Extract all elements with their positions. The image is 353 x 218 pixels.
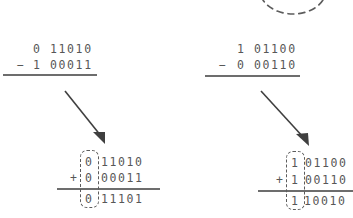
left-addend1-sign: 0 [85, 155, 94, 169]
figure-canvas: 0 11010 − 1 00011 0 11010 + 0 00011 0 11… [0, 0, 353, 218]
right-addition-operator: + [276, 173, 283, 187]
right-addend2-sign: 1 [291, 173, 300, 187]
right-subtraction-rule [205, 75, 300, 77]
left-transform-arrow [62, 88, 118, 150]
left-sum-sign: 0 [85, 192, 94, 206]
right-subtrahend: 0 00110 [237, 58, 297, 72]
right-transform-arrow [258, 88, 320, 152]
right-subtraction-operator: − [219, 58, 226, 72]
left-addition-rule [57, 188, 160, 190]
dashed-ellipse-icon [248, 0, 338, 30]
right-addend1-sign: 1 [291, 156, 300, 170]
right-addend2-magnitude: 00110 [305, 173, 348, 187]
left-subtrahend: 1 00011 [33, 58, 93, 72]
left-sum-magnitude: 11101 [101, 192, 144, 206]
left-addend2-magnitude: 00011 [101, 171, 144, 185]
right-sum-sign: 1 [291, 194, 300, 208]
left-subtraction-rule [3, 74, 97, 76]
right-sum-magnitude: 10010 [304, 194, 347, 208]
left-addend1-magnitude: 11010 [101, 155, 144, 169]
left-addend2-sign: 0 [85, 171, 94, 185]
left-subtraction-operator: − [17, 58, 24, 72]
dashed-ellipse-partial-wrapper [248, 0, 338, 30]
left-minuend: 0 11010 [33, 42, 93, 56]
right-addition-rule [258, 190, 353, 192]
right-minuend: 1 01100 [237, 42, 297, 56]
left-addition-operator: + [70, 171, 77, 185]
right-addend1-magnitude: 01100 [305, 156, 348, 170]
